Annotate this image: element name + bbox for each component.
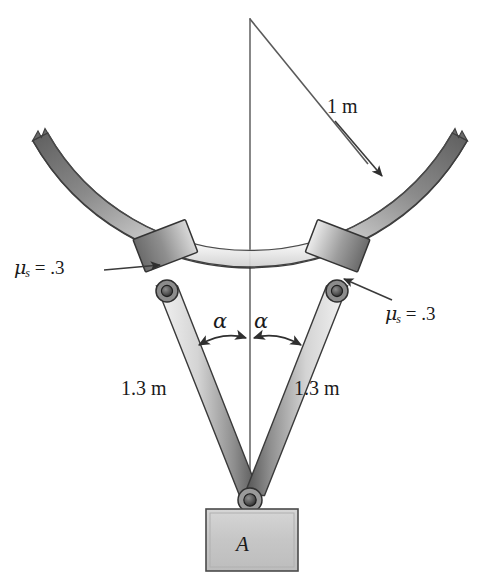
alpha-right-arc-arrow bbox=[254, 336, 301, 345]
mu-value-left: .3 bbox=[50, 257, 64, 278]
block-a-body bbox=[206, 509, 298, 571]
mu-equals-right: = bbox=[406, 303, 417, 324]
link-left-body bbox=[157, 286, 261, 496]
angle-label-alpha-left: α bbox=[213, 311, 227, 332]
mu-subscript-right: s bbox=[396, 312, 401, 326]
block-a-label: A bbox=[236, 534, 249, 555]
friction-coefficient-label-right: μs = .3 bbox=[385, 304, 436, 325]
link-length-label-right: 1.3 m bbox=[294, 378, 340, 398]
mu-right-leader-line bbox=[344, 279, 392, 300]
alpha-left-arc-arrow bbox=[199, 336, 246, 345]
pin-joint-right bbox=[326, 280, 348, 302]
mu-value-right: .3 bbox=[421, 303, 435, 324]
radius-arrow-leader bbox=[335, 121, 382, 176]
link-length-label-left: 1.3 m bbox=[121, 378, 167, 398]
mu-subscript-left: s bbox=[25, 266, 30, 280]
link-left bbox=[157, 286, 261, 496]
block-a bbox=[206, 509, 298, 571]
mu-equals-left: = bbox=[35, 257, 46, 278]
radius-dimension-label: 1 m bbox=[327, 96, 358, 116]
friction-coefficient-label-left: μs = .3 bbox=[14, 258, 65, 279]
pin-joint-left bbox=[156, 280, 178, 302]
radius-leader-line bbox=[250, 19, 368, 164]
angle-label-alpha-right: α bbox=[254, 311, 268, 332]
mechanism-diagram bbox=[0, 0, 482, 584]
figure-canvas: μs = .3 μs = .3 1 m 1.3 m 1.3 m α α A bbox=[0, 0, 482, 584]
